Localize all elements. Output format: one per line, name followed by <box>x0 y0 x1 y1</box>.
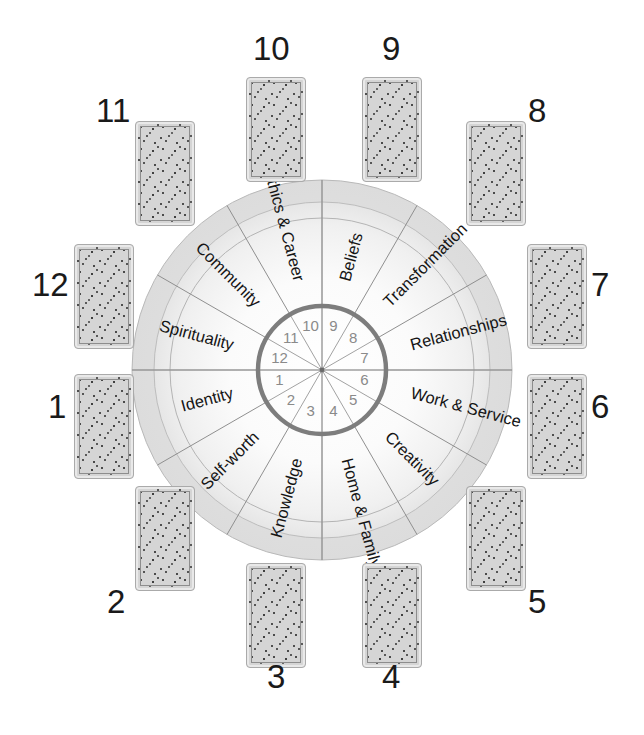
position-number-10: 10 <box>253 32 290 65</box>
tarot-card-12[interactable] <box>75 245 133 348</box>
card-back-pattern-3 <box>251 568 301 663</box>
hub-number-2: 2 <box>287 391 295 408</box>
card-back-pattern-8 <box>471 126 521 221</box>
card-back-pattern-12 <box>79 249 129 344</box>
position-number-11: 11 <box>96 94 130 127</box>
tarot-card-5[interactable] <box>467 487 525 590</box>
position-number-2: 2 <box>107 585 125 618</box>
hub-number-6: 6 <box>360 371 368 388</box>
position-number-12: 12 <box>32 268 69 301</box>
hub-number-7: 7 <box>360 349 368 366</box>
hub-number-8: 8 <box>349 329 357 346</box>
tarot-card-9[interactable] <box>363 78 421 181</box>
hub-number-3: 3 <box>306 402 314 419</box>
hub-number-10: 10 <box>302 317 319 334</box>
position-number-3: 3 <box>267 660 285 693</box>
tarot-card-3[interactable] <box>247 564 305 667</box>
tarot-card-10[interactable] <box>247 78 305 181</box>
hub-number-9: 9 <box>329 317 337 334</box>
card-back-pattern-4 <box>367 568 417 663</box>
position-number-8: 8 <box>528 94 546 127</box>
tarot-card-6[interactable] <box>528 375 586 478</box>
card-back-pattern-2 <box>140 491 190 586</box>
position-number-9: 9 <box>382 32 400 65</box>
position-number-1: 1 <box>48 390 66 423</box>
card-back-pattern-10 <box>251 82 301 177</box>
hub-center-dot <box>320 368 325 373</box>
tarot-card-2[interactable] <box>136 487 194 590</box>
position-number-4: 4 <box>382 660 400 693</box>
position-number-6: 6 <box>591 390 609 423</box>
hub-number-5: 5 <box>349 391 357 408</box>
tarot-wheel-diagram: IdentitySelf-worthKnowledgeHome & Family… <box>0 0 644 735</box>
position-number-7: 7 <box>591 268 609 301</box>
card-back-pattern-6 <box>532 379 582 474</box>
card-back-pattern-9 <box>367 82 417 177</box>
card-back-pattern-11 <box>140 126 190 221</box>
card-back-pattern-1 <box>79 379 129 474</box>
hub-number-12: 12 <box>271 349 288 366</box>
card-back-pattern-5 <box>471 491 521 586</box>
hub-number-4: 4 <box>329 402 337 419</box>
card-back-pattern-7 <box>532 249 582 344</box>
tarot-card-11[interactable] <box>136 122 194 225</box>
tarot-card-8[interactable] <box>467 122 525 225</box>
tarot-card-7[interactable] <box>528 245 586 348</box>
hub-number-11: 11 <box>283 329 299 346</box>
hub-number-1: 1 <box>275 371 283 388</box>
position-number-5: 5 <box>528 585 546 618</box>
tarot-card-4[interactable] <box>363 564 421 667</box>
tarot-card-1[interactable] <box>75 375 133 478</box>
